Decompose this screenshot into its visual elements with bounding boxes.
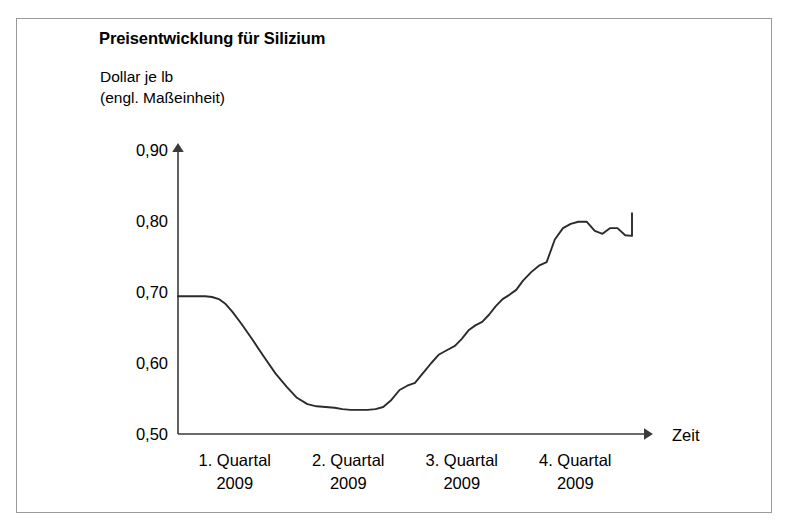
x-axis-category-label: 2. Quartal2009 xyxy=(312,451,384,492)
x-axis-category-line-2: 2009 xyxy=(557,474,594,492)
x-axis-category-line-2: 2009 xyxy=(330,474,367,492)
x-axis-category-label: 3. Quartal2009 xyxy=(426,451,498,492)
y-axis-tick-label: 0,90 xyxy=(136,141,168,159)
x-axis-category-line-1: 1. Quartal xyxy=(199,451,271,469)
x-axis-category-line-1: 3. Quartal xyxy=(426,451,498,469)
x-axis-category-line-1: 2. Quartal xyxy=(312,451,384,469)
y-axis-tick-label: 0,80 xyxy=(136,212,168,230)
series-line-silicon-price xyxy=(178,213,632,410)
x-axis-category-label: 4. Quartal2009 xyxy=(539,451,611,492)
x-axis-label: Zeit xyxy=(672,426,700,444)
y-axis-group: 0,500,600,700,800,90 xyxy=(136,141,178,443)
y-axis-tick-label: 0,70 xyxy=(136,283,168,301)
x-axis-category-label: 1. Quartal2009 xyxy=(199,451,271,492)
x-axis-tick-labels: 1. Quartal20092. Quartal20093. Quartal20… xyxy=(199,451,612,492)
series-group xyxy=(178,213,632,410)
x-axis-category-line-2: 2009 xyxy=(443,474,480,492)
x-axis-group: Zeit 1. Quartal20092. Quartal20093. Quar… xyxy=(178,426,700,492)
line-chart: 0,500,600,700,800,90 Zeit 1. Quartal2009… xyxy=(0,0,790,530)
y-axis-tick-label: 0,60 xyxy=(136,354,168,372)
y-axis-tick-labels: 0,500,600,700,800,90 xyxy=(136,141,168,443)
x-axis-category-line-2: 2009 xyxy=(216,474,253,492)
x-axis-category-line-1: 4. Quartal xyxy=(539,451,611,469)
y-axis-tick-label: 0,50 xyxy=(136,425,168,443)
